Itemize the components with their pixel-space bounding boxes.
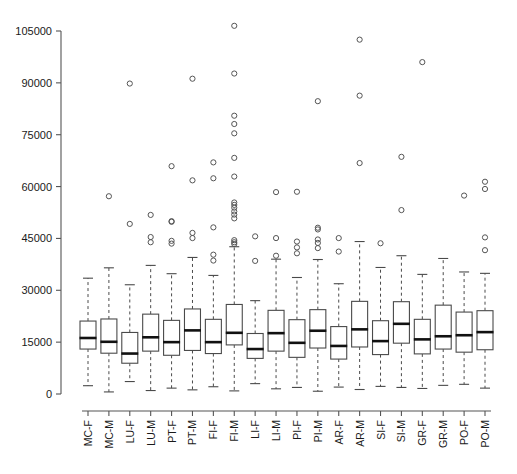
x-tick-label-li-m: LI-M xyxy=(270,420,282,441)
box-rect xyxy=(373,321,389,355)
y-tick-label: 60000 xyxy=(21,181,52,193)
y-tick-label: 105000 xyxy=(15,25,52,37)
x-tick-label-fi-m: FI-M xyxy=(228,420,240,442)
box-rect xyxy=(393,302,409,343)
x-tick-label-gr-f: GR-F xyxy=(416,420,428,446)
x-tick-label-po-f: PO-F xyxy=(458,420,470,445)
box-rect xyxy=(164,320,180,355)
x-tick-label-si-f: SI-F xyxy=(375,420,387,440)
x-tick-label-mc-f: MC-F xyxy=(82,420,94,446)
boxplot-figure: 0150003000045000600007500090000105000 MC… xyxy=(0,0,517,474)
x-tick-label-pt-f: PT-F xyxy=(166,420,178,443)
x-tick-label-ar-m: AR-M xyxy=(354,420,366,447)
y-tick-label: 90000 xyxy=(21,77,52,89)
box-rect xyxy=(268,310,284,351)
x-tick-label-mc-m: MC-M xyxy=(103,420,115,449)
x-tick-label-po-m: PO-M xyxy=(479,420,491,447)
x-tick-label-si-m: SI-M xyxy=(395,420,407,442)
x-tick-label-gr-m: GR-M xyxy=(437,420,449,448)
box-rect xyxy=(122,332,138,363)
box-rect xyxy=(352,301,368,347)
box-rect xyxy=(226,304,242,344)
box-rect xyxy=(331,327,347,359)
box-rect xyxy=(101,319,117,353)
box-rect xyxy=(143,314,159,351)
box-rect xyxy=(310,310,326,348)
y-tick-label: 0 xyxy=(46,388,52,400)
box-rect xyxy=(205,319,221,353)
y-tick-label: 15000 xyxy=(21,336,52,348)
x-tick-label-pi-f: PI-F xyxy=(291,420,303,440)
box-rect xyxy=(414,319,430,354)
x-tick-label-ar-f: AR-F xyxy=(333,420,345,445)
box-rect xyxy=(435,305,451,349)
x-tick-label-lu-f: LU-F xyxy=(124,420,136,443)
x-tick-label-li-f: LI-F xyxy=(249,420,261,439)
x-tick-label-fi-f: FI-F xyxy=(207,420,219,439)
x-tick-label-lu-m: LU-M xyxy=(145,420,157,446)
box-rect xyxy=(80,321,96,349)
x-tick-label-pi-m: PI-M xyxy=(312,420,324,442)
y-tick-label: 75000 xyxy=(21,129,52,141)
box-rect xyxy=(456,312,472,352)
box-rect xyxy=(289,320,305,358)
y-tick-label: 45000 xyxy=(21,232,52,244)
boxplot-svg: 0150003000045000600007500090000105000 MC… xyxy=(0,0,517,474)
y-tick-label: 30000 xyxy=(21,284,52,296)
box-rect xyxy=(477,311,493,350)
plot-background xyxy=(0,0,517,474)
x-tick-label-pt-m: PT-M xyxy=(186,420,198,445)
box-rect xyxy=(247,334,263,359)
